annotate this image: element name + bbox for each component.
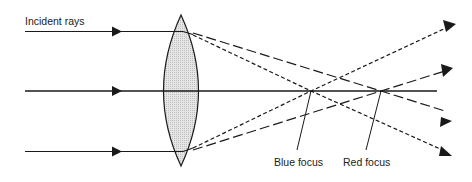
red-ray-top-path: [193, 33, 445, 111]
arrow-icon: [112, 86, 122, 96]
arrow-icon: [440, 117, 452, 127]
blue-ray-bottom-path: [193, 26, 450, 148]
blue-ray-top-path: [193, 35, 447, 152]
blue-focus-label: Blue focus: [274, 156, 323, 168]
arrow-icon: [112, 147, 122, 157]
arrow-icon: [112, 27, 122, 37]
red-focus-label: Red focus: [343, 156, 390, 168]
arrow-icon: [441, 64, 453, 77]
incident-rays-label: Incident rays: [25, 15, 85, 27]
arrow-icon: [443, 20, 456, 32]
blue-focus-leader: [297, 91, 311, 150]
arrow-icon: [439, 146, 452, 156]
red-ray-bottom-path: [193, 71, 445, 150]
red-focus-leader: [366, 91, 381, 150]
chromatic-aberration-diagram: Incident rays Blue focus Red focus: [0, 0, 472, 182]
